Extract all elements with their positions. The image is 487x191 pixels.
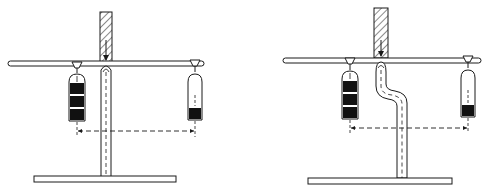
dimension-line xyxy=(351,126,467,130)
right-panel xyxy=(283,8,481,184)
base xyxy=(308,178,452,184)
light-container xyxy=(188,60,202,137)
heavy-container xyxy=(342,58,358,133)
support-post-bent xyxy=(376,62,407,178)
beam xyxy=(8,61,204,66)
weight-bar xyxy=(100,12,112,62)
left-panel xyxy=(8,12,204,182)
heavy-container xyxy=(69,62,85,137)
balance-diagram xyxy=(0,0,487,191)
base xyxy=(34,176,176,182)
dimension-line xyxy=(78,129,194,133)
support-post xyxy=(101,66,111,176)
light-container xyxy=(461,56,475,133)
weight-bar xyxy=(374,8,388,58)
